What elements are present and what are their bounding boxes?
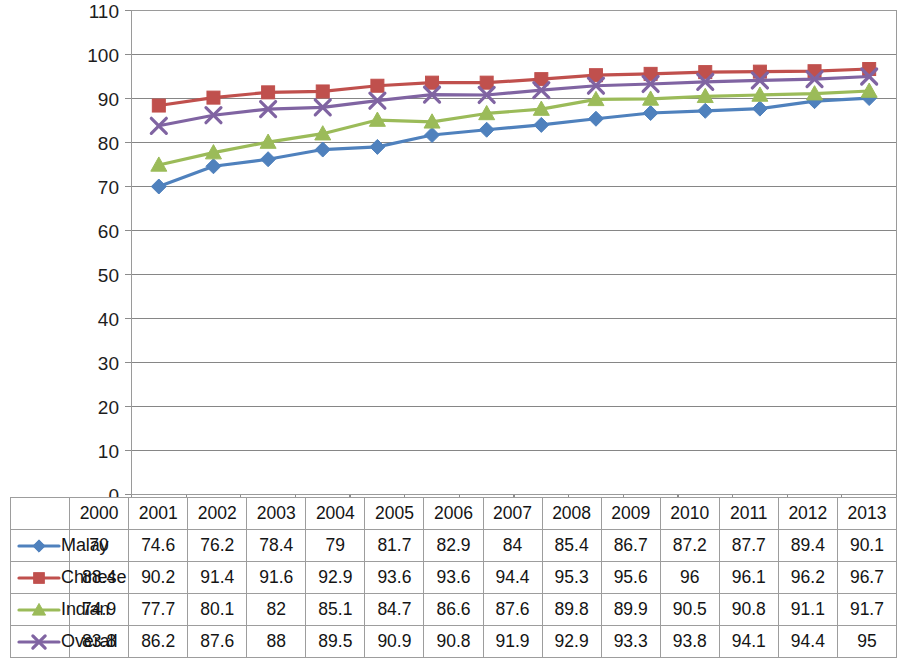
cell-indian-2009: 89.9 — [601, 594, 660, 626]
table-row: Indian74.977.780.18285.184.786.687.689.8… — [11, 594, 897, 626]
legend-entry-overall[interactable]: Overall — [11, 626, 70, 658]
y-tick-label: 30 — [98, 353, 119, 374]
y-tick-label: 90 — [98, 89, 119, 110]
table-row: Chinese88.490.291.491.692.993.693.694.49… — [11, 562, 897, 594]
cell-chinese-2006: 93.6 — [424, 562, 483, 594]
chart-data-table: 2000200120022003200420052006200720082009… — [10, 497, 897, 658]
cell-malay-2002: 76.2 — [188, 530, 247, 562]
y-tick-label: 0 — [108, 485, 119, 498]
legend-key-x-icon — [17, 631, 61, 653]
cell-indian-2008: 89.8 — [542, 594, 601, 626]
column-header-2013: 2013 — [837, 498, 896, 530]
data-point-marker — [206, 159, 221, 174]
cell-indian-2004: 85.1 — [306, 594, 365, 626]
cell-indian-2001: 77.7 — [129, 594, 188, 626]
cell-indian-2013: 91.7 — [837, 594, 896, 626]
cell-chinese-2005: 93.6 — [365, 562, 424, 594]
data-point-marker — [643, 106, 658, 121]
legend-key-triangle-icon — [17, 599, 61, 621]
cell-indian-2007: 87.6 — [483, 594, 542, 626]
column-header-2000: 2000 — [70, 498, 129, 530]
y-axis-tick-labels: 0102030405060708090100110 — [87, 1, 119, 498]
cell-chinese-2008: 95.3 — [542, 562, 601, 594]
legend-key-square-icon — [17, 567, 61, 589]
data-point-marker — [752, 101, 767, 116]
cell-indian-2010: 90.5 — [660, 594, 719, 626]
table-row: Overall83.886.287.68889.590.990.891.992.… — [11, 626, 897, 658]
column-header-2005: 2005 — [365, 498, 424, 530]
data-point-marker — [316, 85, 329, 98]
data-point-marker — [426, 76, 439, 89]
data-point-marker — [425, 128, 440, 143]
column-header-2003: 2003 — [247, 498, 306, 530]
axis-tick-marks — [125, 11, 132, 495]
y-gridlines — [132, 11, 897, 451]
table-header-row: 2000200120022003200420052006200720082009… — [11, 498, 897, 530]
cell-chinese-2010: 96 — [660, 562, 719, 594]
cell-overall-2006: 90.8 — [424, 626, 483, 658]
cell-overall-2001: 86.2 — [129, 626, 188, 658]
y-tick-label: 110 — [89, 1, 119, 22]
cell-chinese-2012: 96.2 — [778, 562, 837, 594]
y-tick-label: 50 — [98, 265, 119, 286]
cell-malay-2009: 86.7 — [601, 530, 660, 562]
cell-overall-2002: 87.6 — [188, 626, 247, 658]
cell-malay-2005: 81.7 — [365, 530, 424, 562]
chart-canvas: 0102030405060708090100110 — [0, 0, 907, 497]
legend-entry-malay[interactable]: Malay — [11, 530, 70, 562]
data-point-marker — [698, 103, 713, 118]
cell-malay-2011: 87.7 — [719, 530, 778, 562]
column-header-2006: 2006 — [424, 498, 483, 530]
cell-malay-2004: 79 — [306, 530, 365, 562]
data-point-marker — [152, 99, 165, 112]
cell-chinese-2007: 94.4 — [483, 562, 542, 594]
legend-entry-chinese[interactable]: Chinese — [11, 562, 70, 594]
y-tick-label: 40 — [98, 309, 119, 330]
cell-overall-2011: 94.1 — [719, 626, 778, 658]
y-tick-label: 10 — [98, 441, 119, 462]
data-point-marker — [588, 111, 603, 126]
y-tick-label: 70 — [98, 177, 119, 198]
chart-page: 0102030405060708090100110 20002001200220… — [0, 0, 907, 658]
cell-chinese-2004: 92.9 — [306, 562, 365, 594]
data-point-marker — [151, 179, 166, 194]
cell-malay-2008: 85.4 — [542, 530, 601, 562]
cell-malay-2013: 90.1 — [837, 530, 896, 562]
cell-indian-2005: 84.7 — [365, 594, 424, 626]
legend-entry-indian[interactable]: Indian — [11, 594, 70, 626]
cell-overall-2008: 92.9 — [542, 626, 601, 658]
cell-overall-2013: 95 — [837, 626, 896, 658]
cell-malay-2003: 78.4 — [247, 530, 306, 562]
cell-overall-2005: 90.9 — [365, 626, 424, 658]
column-header-2010: 2010 — [660, 498, 719, 530]
column-header-2001: 2001 — [129, 498, 188, 530]
data-point-marker — [207, 91, 220, 104]
data-point-marker — [371, 79, 384, 92]
cell-chinese-2009: 95.6 — [601, 562, 660, 594]
column-header-2007: 2007 — [483, 498, 542, 530]
cell-indian-2003: 82 — [247, 594, 306, 626]
cell-malay-2012: 89.4 — [778, 530, 837, 562]
legend-key-diamond-icon — [17, 535, 61, 557]
cell-indian-2011: 90.8 — [719, 594, 778, 626]
cell-overall-2004: 89.5 — [306, 626, 365, 658]
cell-chinese-2001: 90.2 — [129, 562, 188, 594]
data-table: 2000200120022003200420052006200720082009… — [10, 497, 897, 658]
cell-malay-2007: 84 — [483, 530, 542, 562]
plot-area-border — [132, 11, 897, 495]
cell-indian-2012: 91.1 — [778, 594, 837, 626]
y-tick-label: 20 — [98, 397, 119, 418]
cell-chinese-2013: 96.7 — [837, 562, 896, 594]
cell-overall-2007: 91.9 — [483, 626, 542, 658]
cell-malay-2001: 74.6 — [129, 530, 188, 562]
cell-malay-2010: 87.2 — [660, 530, 719, 562]
series-layer — [151, 63, 877, 194]
table-body: Malay7074.676.278.47981.782.98485.486.78… — [11, 530, 897, 658]
cell-overall-2009: 93.3 — [601, 626, 660, 658]
cell-indian-2006: 86.6 — [424, 594, 483, 626]
column-header-2009: 2009 — [601, 498, 660, 530]
data-point-marker — [534, 117, 549, 132]
cell-malay-2006: 82.9 — [424, 530, 483, 562]
line-chart: 0102030405060708090100110 — [0, 0, 907, 497]
column-header-2008: 2008 — [542, 498, 601, 530]
